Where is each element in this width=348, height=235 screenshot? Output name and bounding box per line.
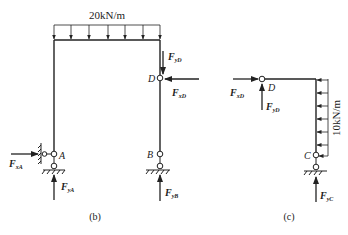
force-FyC-label: FyC [319, 190, 334, 202]
structural-diagram: 20kN/m D FyD FxD [0, 0, 348, 235]
node-C-label: C [304, 150, 311, 161]
node-B-label: B [147, 149, 153, 160]
force-FyD-label-c: FyD [265, 101, 280, 113]
load-label-c: 10kN/m [330, 100, 342, 137]
force-FyD-label-b: FyD [167, 51, 182, 63]
caption-b: (b) [89, 211, 101, 223]
figure-b: 20kN/m D FyD FxD [8, 9, 199, 223]
caption-c: (c) [283, 211, 294, 223]
node-D-label-c: D [267, 82, 276, 93]
node-A-label: A [58, 150, 66, 161]
load-label-b: 20kN/m [89, 9, 126, 21]
frame-b [54, 40, 160, 151]
hinge-D-b [157, 75, 163, 81]
node-D-label-b: D [147, 73, 156, 84]
hinge-D-c [259, 76, 265, 82]
distributed-load-20 [54, 25, 160, 39]
force-FyA-label: FyA [60, 181, 74, 193]
force-FxD-label-b: FxD [171, 87, 187, 99]
force-FyB-label: FyB [164, 187, 178, 199]
force-FxD-label-c: FxD [229, 87, 245, 99]
figure-c: D FxD FyD 10kN/m [229, 76, 342, 223]
force-FxA-label: FxA [8, 158, 23, 170]
distributed-load-10 [317, 79, 328, 156]
